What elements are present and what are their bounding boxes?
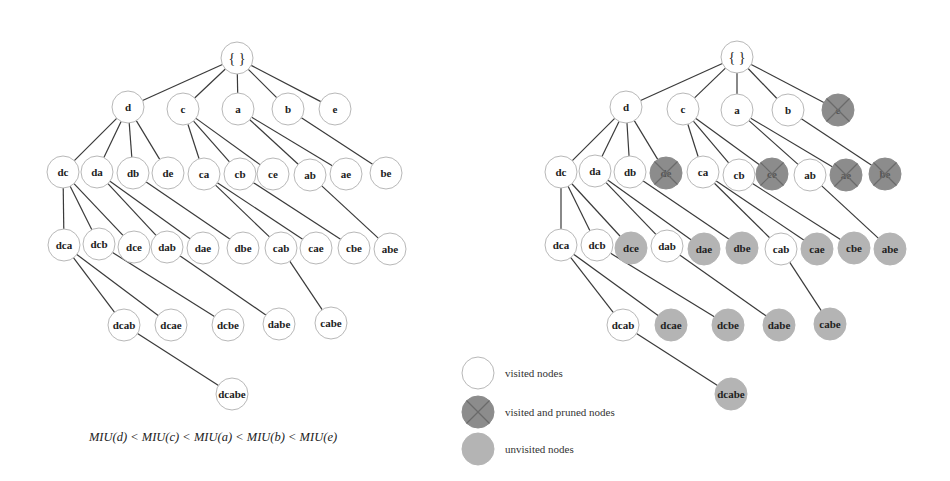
node-label: be [381,167,392,179]
tree-edge-dca-dcab [571,258,613,313]
tree-node-dcab: dcab [108,309,140,341]
tree-edge-cb-cbe [753,184,841,240]
tree-node-cb: cb [224,158,256,190]
node-label: ab [804,169,816,181]
node-label: cae [308,242,323,254]
node-label: cabe [819,318,841,330]
tree-node-dcabe: dcabe [216,378,248,410]
node-label: dcab [612,319,635,331]
tree-node-root: { } [721,41,753,73]
tree-edge-d-de [136,121,159,160]
tree-node-dcae: dcae [655,309,687,341]
unvisited-node-circle [462,433,494,465]
node-label: da [91,166,103,178]
tree-edge-ca-cae [217,183,302,239]
tree-edge-c-ca [688,124,698,157]
legend-label: unvisited nodes [505,443,574,455]
miu-ordering-formula: MIU(d) < MIU(c) < MIU(a) < MIU(b) < MIU(… [88,430,337,444]
tree-node-e: e [822,94,854,126]
tree-node-a: a [721,94,753,126]
tree-node-cab: cab [765,233,797,265]
tree-node-ce: ce [257,158,289,190]
node-label: dcbe [217,319,239,331]
tree-edge-root-c [195,69,226,98]
legend-label: visited and pruned nodes [505,406,615,418]
tree-node-cb: cb [723,159,755,191]
legend-item-unvisited: unvisited nodes [462,433,574,465]
tree-node-ce: ce [756,158,788,190]
right-tree-nodes: { }dcabedcdadbdecacbceabaebedcadcbdcedab… [545,41,906,410]
node-label: db [624,166,636,178]
tree-node-a: a [222,93,254,125]
tree-node-dab: dab [651,230,683,262]
tree-node-ab: ab [294,159,326,191]
tree-node-dce: dce [118,231,150,263]
legend-swatch-visited [462,357,494,389]
node-label: dcae [160,319,182,331]
node-label: dab [658,240,676,252]
node-label: ab [304,169,316,181]
tree-edge-d-db [129,123,132,157]
tree-node-abe: abe [374,233,406,265]
tree-node-cabe: cabe [814,308,846,340]
node-label: cb [235,168,246,180]
tree-edge-cab-cabe [790,262,821,310]
tree-node-dcbe: dcbe [712,309,744,341]
tree-node-dbe: dbe [726,232,758,264]
node-label: b [785,104,791,116]
node-label: ca [199,168,210,180]
tree-edge-dcab-dcabe [137,334,218,386]
node-label: e [333,103,338,115]
tree-node-dce: dce [615,232,647,264]
tree-node-b: b [772,94,804,126]
tree-node-dcb: dcb [581,229,613,261]
node-label: dca [56,239,73,251]
node-label: cae [809,243,824,255]
tree-edge-root-b [248,69,276,97]
tree-node-root: { } [221,42,253,74]
node-label: ce [268,168,278,180]
node-label: cabe [320,317,342,329]
tree-edge-ca-cae [716,181,803,240]
node-label: dcae [660,319,682,331]
tree-edge-db-dbe [146,182,230,239]
tree-node-de: de [650,157,682,189]
tree-edge-d-de [634,121,657,160]
node-label: ca [698,166,709,178]
tree-edge-dca-dcae [574,254,658,315]
tree-node-cae: cae [300,232,332,264]
tree-node-dcab: dcab [607,309,639,341]
legend-item-pruned: visited and pruned nodes [462,396,615,428]
tree-node-dcbe: dcbe [212,309,244,341]
node-label: dc [556,166,567,178]
tree-edge-root-b [748,69,777,99]
tree-edge-dc-dcb [568,186,590,230]
node-label: dae [696,243,713,255]
tree-node-be: be [869,158,901,190]
tree-node-ca: ca [687,156,719,188]
left-tree-nodes: { }dcabedcdadbdecacbceabaebedcadcbdcedab… [47,42,406,410]
tree-node-d: d [112,91,144,123]
node-label: dabe [768,319,791,331]
node-label: abe [882,243,899,255]
node-label: de [163,167,174,179]
legend-item-visited: visited nodes [462,357,563,389]
node-label: dcabe [218,388,246,400]
legend-label: visited nodes [505,367,563,379]
tree-edge-ab-abe [322,186,379,238]
tree-node-c: c [667,93,699,125]
node-label: cbe [346,242,362,254]
tree-node-dc: dc [47,156,79,188]
node-label: { } [729,50,746,65]
tree-node-dbe: dbe [227,232,259,264]
tree-edge-dc-dcb [70,186,92,229]
tree-edge-db-dbe [643,181,729,239]
node-label: b [285,103,291,115]
tree-node-dcae: dcae [155,309,187,341]
tree-node-dcabe: dcabe [715,378,747,410]
pruning-tree-diagram: { }dcabedcdadbdecacbceabaebedcadcbdcedab… [0,0,950,481]
node-label: dcabe [717,388,745,400]
node-label: dca [553,239,570,251]
right-tree-pruned-search: { }dcabedcdadbdecacbceabaebedcadcbdcedab… [545,41,906,410]
tree-node-cbe: cbe [338,232,370,264]
